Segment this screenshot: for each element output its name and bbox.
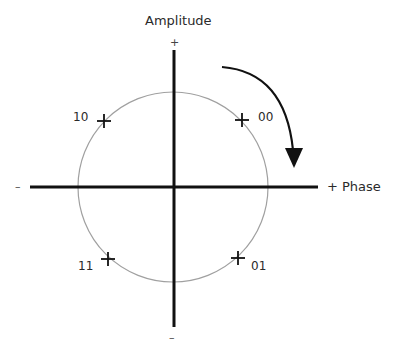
diagram-canvas [0, 0, 396, 347]
x-axis-label: + Phase [327, 180, 381, 194]
point-label-00: 00 [258, 110, 273, 124]
y-axis-label: Amplitude [145, 14, 212, 28]
point-label-10: 10 [73, 110, 88, 124]
arrowhead-icon [285, 148, 303, 168]
point-marker-00 [235, 113, 249, 127]
point-label-11: 11 [78, 259, 93, 273]
point-marker-11 [101, 252, 115, 266]
y-axis-negative-sign: – [169, 332, 175, 344]
point-label-01: 01 [251, 259, 266, 273]
rotation-arrow-icon [222, 67, 293, 150]
point-marker-01 [231, 251, 245, 265]
x-axis-negative-sign: – [15, 181, 21, 193]
y-axis-positive-sign: + [170, 37, 179, 49]
